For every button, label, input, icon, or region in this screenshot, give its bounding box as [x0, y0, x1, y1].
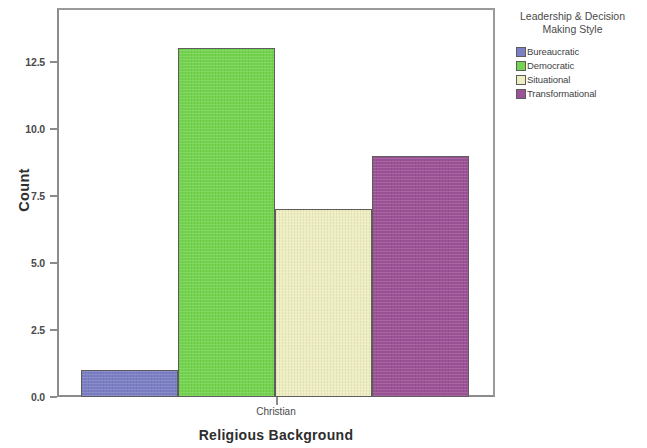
x-axis-tick-label: Christian	[226, 406, 326, 417]
y-tick-mark	[50, 329, 57, 331]
legend-item[interactable]: Bureaucratic	[516, 45, 647, 58]
bar-texture	[179, 49, 274, 396]
bar-democratic	[178, 48, 275, 397]
legend-color-swatch	[516, 75, 526, 85]
bars-container	[59, 8, 495, 397]
legend-item-label: Transformational	[527, 88, 596, 99]
bar-situational	[275, 209, 372, 397]
y-axis-title: Count	[16, 150, 32, 230]
legend-color-swatch	[516, 61, 526, 71]
legend-item-label: Bureaucratic	[527, 46, 579, 57]
bar-transformational	[372, 156, 469, 397]
y-tick-mark	[50, 195, 57, 197]
x-axis-tick-mark	[276, 397, 278, 405]
y-tick-label: 12.5	[25, 56, 45, 68]
legend-title-line-2: Making Style	[500, 23, 645, 36]
legend-title: Leadership & Decision Making Style	[498, 10, 647, 36]
legend-title-line-1: Leadership & Decision	[500, 10, 645, 23]
legend-items: BureaucraticDemocraticSituationalTransfo…	[498, 45, 647, 100]
y-tick-mark	[50, 396, 57, 398]
y-tick-label: 5.0	[31, 257, 45, 269]
x-axis-title: Religious Background	[57, 427, 495, 443]
y-tick-label: 7.5	[31, 190, 45, 202]
bar-texture	[276, 210, 371, 396]
bar-bureaucratic	[81, 370, 178, 397]
legend-color-swatch	[516, 89, 526, 99]
legend-item[interactable]: Transformational	[516, 87, 647, 100]
bar-texture	[373, 157, 468, 396]
y-tick-label: 10.0	[25, 123, 45, 135]
legend-item[interactable]: Situational	[516, 73, 647, 86]
legend: Leadership & Decision Making Style Burea…	[498, 10, 647, 101]
y-tick-mark	[50, 61, 57, 63]
legend-color-swatch	[516, 47, 526, 57]
legend-item[interactable]: Democratic	[516, 59, 647, 72]
y-tick-mark	[50, 262, 57, 264]
legend-item-label: Situational	[527, 74, 570, 85]
y-tick-label: 0.0	[31, 391, 45, 403]
bar-texture	[82, 371, 177, 396]
bar-chart: 0.02.55.07.510.012.5 Count Christian Rel…	[0, 0, 647, 448]
y-tick-mark	[50, 128, 57, 130]
y-tick-label: 2.5	[31, 324, 45, 336]
legend-item-label: Democratic	[527, 60, 574, 71]
